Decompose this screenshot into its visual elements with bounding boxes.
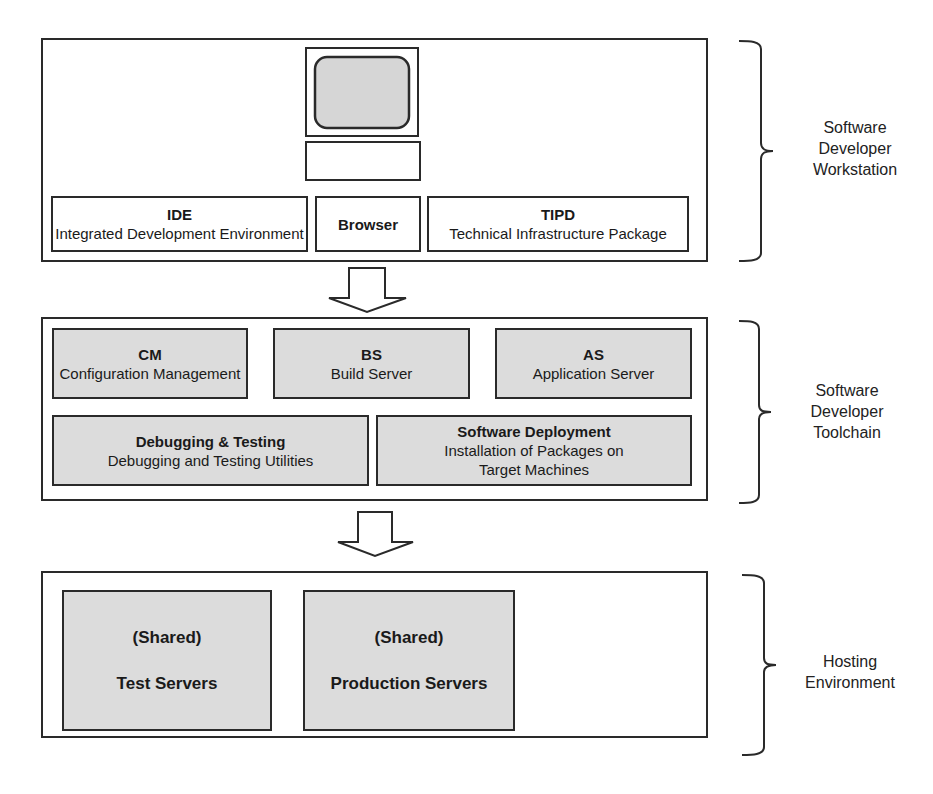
component-subtitle: Build Server (331, 364, 413, 383)
component-qualifier: (Shared) (375, 627, 444, 649)
component-title: BS (361, 345, 382, 364)
tier-label-line: Developer (790, 138, 920, 159)
component-title: Browser (338, 215, 398, 234)
workstation-monitor-icon (304, 46, 422, 184)
down-arrow-icon (336, 510, 416, 558)
component-subtitle: Configuration Management (60, 364, 241, 383)
component-subtitle: Technical Infrastructure Package (449, 224, 667, 243)
component-subtitle: Application Server (533, 364, 655, 383)
tier-label-line: Toolchain (782, 422, 912, 443)
component-cm: CM Configuration Management (52, 328, 248, 399)
component-subtitle: Target Machines (479, 460, 589, 479)
brace-icon (737, 39, 777, 263)
component-qualifier: (Shared) (133, 627, 202, 649)
component-debugging-testing: Debugging & Testing Debugging and Testin… (52, 415, 369, 486)
component-title: Software Deployment (457, 422, 610, 441)
tier-label-toolchain: Software Developer Toolchain (782, 380, 912, 443)
component-title: IDE (167, 205, 192, 224)
component-tipd: TIPD Technical Infrastructure Package (427, 196, 689, 252)
down-arrow-icon (328, 266, 408, 314)
brace-icon (737, 319, 777, 505)
component-title: Debugging & Testing (136, 432, 286, 451)
component-title: Test Servers (117, 673, 218, 695)
component-software-deployment: Software Deployment Installation of Pack… (376, 415, 692, 486)
component-bs: BS Build Server (273, 328, 470, 399)
tier-label-hosting: Hosting Environment (785, 651, 915, 693)
brace-icon (740, 573, 780, 757)
component-title: Production Servers (331, 673, 488, 695)
component-as: AS Application Server (495, 328, 692, 399)
component-title: CM (138, 345, 161, 364)
component-title: AS (583, 345, 604, 364)
tier-label-line: Software (782, 380, 912, 401)
component-title: TIPD (541, 205, 575, 224)
tier-label-line: Environment (785, 672, 915, 693)
component-subtitle: Debugging and Testing Utilities (108, 451, 314, 470)
tier-label-line: Software (790, 117, 920, 138)
component-subtitle: Integrated Development Environment (55, 224, 303, 243)
component-test-servers: (Shared) Test Servers (62, 590, 272, 731)
component-production-servers: (Shared) Production Servers (303, 590, 515, 731)
tier-label-line: Hosting (785, 651, 915, 672)
tier-label-line: Workstation (790, 159, 920, 180)
component-browser: Browser (315, 196, 421, 252)
component-ide: IDE Integrated Development Environment (51, 196, 308, 252)
component-subtitle: Installation of Packages on (444, 441, 623, 460)
tier-label-line: Developer (782, 401, 912, 422)
tier-label-workstation: Software Developer Workstation (790, 117, 920, 180)
